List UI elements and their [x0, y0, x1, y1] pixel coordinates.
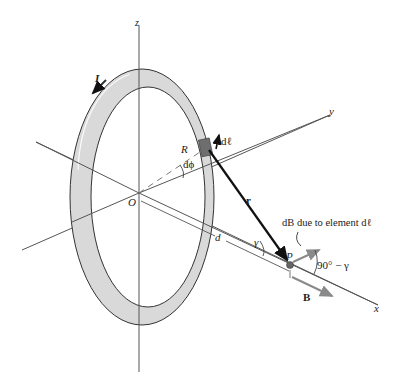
- current-label: I: [95, 73, 99, 84]
- point-label: P: [286, 251, 293, 262]
- current-loop: [70, 69, 214, 325]
- loop-diagram: [0, 0, 398, 390]
- d-label: d: [215, 232, 221, 243]
- radius-label: R: [181, 144, 188, 155]
- y-axis-label: y: [329, 106, 334, 117]
- gamma-label: γ: [254, 237, 258, 248]
- x-axis-label: x: [374, 303, 379, 314]
- r-label: r: [246, 195, 251, 206]
- angle-label: 90° − γ: [317, 260, 349, 271]
- dl-label: dℓ: [221, 136, 232, 147]
- db-vector: [293, 250, 319, 262]
- db-note: dB due to element dℓ: [282, 218, 372, 229]
- point-p: [287, 262, 294, 269]
- dphi-label: dϕ: [183, 159, 194, 170]
- z-axis-label: z: [135, 18, 139, 28]
- b-label: B: [303, 292, 310, 303]
- origin-label: O: [128, 197, 136, 208]
